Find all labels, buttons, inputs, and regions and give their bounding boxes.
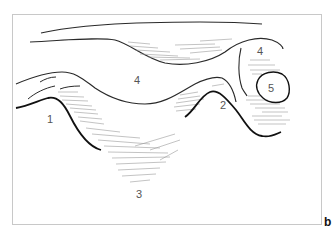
bold-contour-2 (185, 91, 281, 136)
hatching-region-3 (86, 128, 180, 182)
label-region-2: 2 (220, 100, 226, 111)
label-region-5: 5 (268, 83, 274, 94)
inner-left-line-3 (60, 86, 80, 89)
vertical-divider-line (239, 48, 247, 96)
label-region-1: 1 (47, 114, 53, 125)
inner-left-line-1 (40, 77, 56, 82)
label-region-4-center: 4 (134, 75, 140, 86)
hatching-right (174, 84, 224, 111)
panel-letter: b (324, 216, 331, 228)
label-region-4-right: 4 (257, 46, 263, 57)
figure-frame (13, 15, 322, 225)
upper-contour-line (41, 22, 262, 33)
label-region-3: 3 (136, 189, 142, 200)
anatomical-diagram: 1 2 3 4 4 5 b (0, 0, 335, 232)
